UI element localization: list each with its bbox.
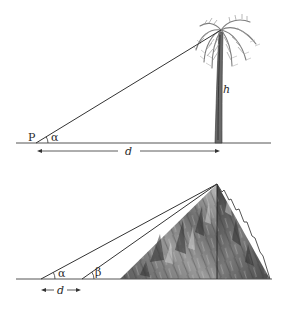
mountain-figure: α β d xyxy=(16,184,272,297)
angle-label-beta: β xyxy=(95,266,101,279)
distance-label-d-top: d xyxy=(125,145,132,158)
angle-arc-alpha-bottom xyxy=(53,272,55,279)
palm-tree-icon xyxy=(193,14,260,143)
distance-label-d-bottom: d xyxy=(57,284,64,297)
angle-arc-alpha xyxy=(46,137,48,143)
diagram-canvas: P α h d xyxy=(0,0,288,309)
mountain-icon xyxy=(120,184,270,279)
palm-figure: P α h d xyxy=(16,14,271,158)
line-of-sight xyxy=(36,30,221,143)
height-label-h: h xyxy=(223,83,230,96)
angle-arc-beta xyxy=(92,272,94,279)
angle-label-alpha: α xyxy=(51,131,59,144)
point-label-p: P xyxy=(28,131,36,144)
angle-label-alpha-bottom: α xyxy=(58,267,66,280)
